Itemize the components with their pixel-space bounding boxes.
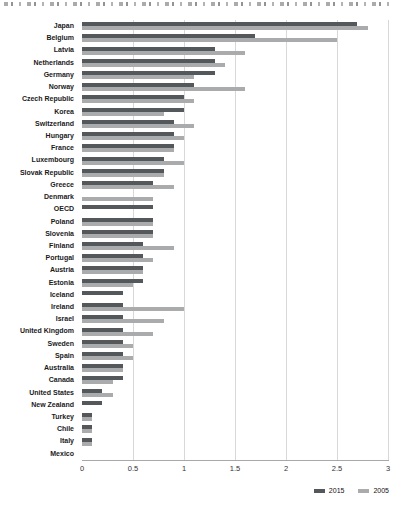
x-tick-label: 0 bbox=[80, 464, 84, 473]
bar-group bbox=[82, 423, 388, 435]
category-label: Korea bbox=[0, 106, 82, 118]
table-row: Czech Republic bbox=[0, 93, 407, 105]
bar-group bbox=[82, 57, 388, 69]
category-label: Latvia bbox=[0, 44, 82, 56]
table-row: Belgium bbox=[0, 32, 407, 44]
category-label: Belgium bbox=[0, 32, 82, 44]
bar-2015 bbox=[82, 291, 123, 295]
bar-group bbox=[82, 289, 388, 301]
category-label: Denmark bbox=[0, 191, 82, 203]
x-axis-ticks: 00.511.522.53 bbox=[82, 464, 388, 474]
bar-2005 bbox=[82, 222, 153, 226]
table-row: Netherlands bbox=[0, 57, 407, 69]
table-row: Slovenia bbox=[0, 228, 407, 240]
bar-2005 bbox=[82, 63, 225, 67]
bar-2015 bbox=[82, 205, 153, 209]
bar-group bbox=[82, 411, 388, 423]
table-row: Germany bbox=[0, 69, 407, 81]
bar-group bbox=[82, 69, 388, 81]
bar-group bbox=[82, 203, 388, 215]
legend-swatch-2015 bbox=[314, 489, 325, 493]
category-label: Netherlands bbox=[0, 57, 82, 69]
bar-2005 bbox=[82, 185, 174, 189]
table-row: Luxembourg bbox=[0, 154, 407, 166]
bar-group bbox=[82, 44, 388, 56]
legend-label-2015: 2015 bbox=[329, 487, 345, 494]
table-row: Iceland bbox=[0, 289, 407, 301]
bar-2005 bbox=[82, 258, 153, 262]
category-label: Slovak Republic bbox=[0, 167, 82, 179]
bar-group bbox=[82, 448, 388, 460]
bar-2005 bbox=[82, 136, 184, 140]
table-row: Slovak Republic bbox=[0, 167, 407, 179]
table-row: Latvia bbox=[0, 44, 407, 56]
cropped-title-fragment bbox=[4, 2, 390, 6]
table-row: Chile bbox=[0, 423, 407, 435]
category-label: United Kingdom bbox=[0, 325, 82, 337]
category-label: OECD bbox=[0, 203, 82, 215]
category-label: Slovenia bbox=[0, 228, 82, 240]
table-row: Australia bbox=[0, 362, 407, 374]
bar-2005 bbox=[82, 356, 133, 360]
category-label: Australia bbox=[0, 362, 82, 374]
table-row: Denmark bbox=[0, 191, 407, 203]
bar-2005 bbox=[82, 173, 164, 177]
table-row: Turkey bbox=[0, 411, 407, 423]
category-label: Hungary bbox=[0, 130, 82, 142]
bar-group bbox=[82, 228, 388, 240]
x-tick-label: 1.5 bbox=[230, 464, 240, 473]
bar-chart: JapanBelgiumLatviaNetherlandsGermanyNorw… bbox=[0, 20, 407, 460]
bar-group bbox=[82, 240, 388, 252]
category-label: Norway bbox=[0, 81, 82, 93]
x-axis-line bbox=[82, 460, 389, 461]
table-row: United Kingdom bbox=[0, 325, 407, 337]
bar-2005 bbox=[82, 197, 153, 201]
bar-group bbox=[82, 338, 388, 350]
x-tick-label: 0.5 bbox=[128, 464, 138, 473]
bar-group bbox=[82, 374, 388, 386]
table-row: Norway bbox=[0, 81, 407, 93]
bar-2005 bbox=[82, 246, 174, 250]
bar-2005 bbox=[82, 112, 164, 116]
table-row: Canada bbox=[0, 374, 407, 386]
category-label: Chile bbox=[0, 423, 82, 435]
table-row: Hungary bbox=[0, 130, 407, 142]
bar-2005 bbox=[82, 234, 153, 238]
bar-group bbox=[82, 179, 388, 191]
table-row: Israel bbox=[0, 313, 407, 325]
legend-label-2005: 2005 bbox=[373, 487, 389, 494]
table-row: France bbox=[0, 142, 407, 154]
bar-2005 bbox=[82, 148, 174, 152]
category-label: Japan bbox=[0, 20, 82, 32]
category-label: Portugal bbox=[0, 252, 82, 264]
category-label: Finland bbox=[0, 240, 82, 252]
bar-2005 bbox=[82, 87, 245, 91]
category-label: France bbox=[0, 142, 82, 154]
bar-group bbox=[82, 325, 388, 337]
bar-group bbox=[82, 350, 388, 362]
category-label: Greece bbox=[0, 179, 82, 191]
bar-2005 bbox=[82, 344, 133, 348]
table-row: Japan bbox=[0, 20, 407, 32]
bar-2005 bbox=[82, 99, 194, 103]
table-row: Korea bbox=[0, 106, 407, 118]
bar-group bbox=[82, 301, 388, 313]
table-row: Greece bbox=[0, 179, 407, 191]
bar-2005 bbox=[82, 417, 92, 421]
bar-2005 bbox=[82, 75, 194, 79]
x-tick-label: 2 bbox=[284, 464, 288, 473]
bar-2005 bbox=[82, 332, 153, 336]
bar-2005 bbox=[82, 307, 184, 311]
category-label: Czech Republic bbox=[0, 93, 82, 105]
category-label: New Zealand bbox=[0, 399, 82, 411]
table-row: Sweden bbox=[0, 338, 407, 350]
bar-2005 bbox=[82, 270, 143, 274]
bar-2005 bbox=[82, 442, 92, 446]
bar-group bbox=[82, 399, 388, 411]
category-label: Turkey bbox=[0, 411, 82, 423]
category-label: Austria bbox=[0, 264, 82, 276]
bar-group bbox=[82, 81, 388, 93]
category-label: Italy bbox=[0, 435, 82, 447]
category-label: Luxembourg bbox=[0, 154, 82, 166]
x-tick-label: 3 bbox=[386, 464, 390, 473]
